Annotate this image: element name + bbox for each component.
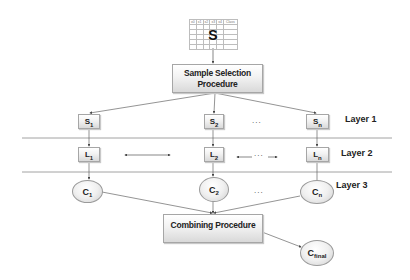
node-l2: L2 (204, 147, 224, 162)
node-ln: Ln (306, 147, 329, 162)
node-c1: C1 (72, 180, 103, 203)
combining-box: Combining Procedure (163, 214, 263, 243)
node-cn: Cn (300, 180, 334, 204)
sample-selection-label: Sample Selection Procedure (181, 68, 254, 90)
layer2-label: Layer 2 (341, 148, 373, 158)
node-s2: S2 (204, 114, 224, 129)
layer1-label: Layer 1 (345, 114, 377, 124)
node-sub: n (318, 122, 322, 128)
node-sub: 2 (216, 190, 219, 196)
layer3-label: Layer 3 (336, 180, 368, 190)
sample-selection-box: Sample Selection Procedure (172, 64, 263, 93)
node-sub: 1 (90, 155, 93, 161)
node-l1: L1 (78, 147, 100, 162)
node-c2: C2 (199, 177, 229, 202)
node-sub: 1 (90, 122, 93, 128)
node-sub: 2 (215, 122, 218, 128)
dataset-label: S (205, 27, 221, 43)
layer2-ellipsis: ... (254, 149, 264, 158)
node-s1: S1 (78, 114, 100, 129)
node-sub: final (314, 253, 326, 259)
node-c-final: Cfinal (300, 240, 334, 266)
node-sub: 1 (89, 192, 92, 198)
layer3-ellipsis: ... (254, 186, 264, 195)
layer1-ellipsis: ... (252, 116, 262, 125)
combining-label: Combining Procedure (171, 220, 256, 231)
node-sn: Sn (306, 114, 329, 129)
node-sub: 2 (215, 155, 218, 161)
node-sub: n (318, 192, 322, 198)
node-sub: n (318, 155, 322, 161)
ensemble-diagram: x0 x1 x2 x3 x4 Class S Sample Selection … (0, 0, 410, 280)
